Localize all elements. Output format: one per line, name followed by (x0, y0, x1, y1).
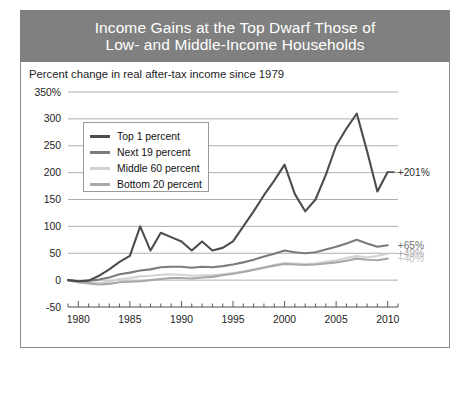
plot-area: -50050100150200250300350%198019851990199… (21, 62, 449, 347)
legend-swatch-middle-60 (90, 167, 110, 170)
figure-title-line-2: Low- and Middle-Income Households (105, 36, 364, 53)
legend-item-bottom-20: Bottom 20 percent (90, 176, 202, 192)
y-tick-label-250: 250 (44, 140, 62, 151)
chart-panel: Percent change in real after-tax income … (20, 62, 450, 348)
end-label-201: +201% (398, 167, 430, 178)
y-tick-label-50: 50 (49, 248, 61, 259)
legend-item-top-1: Top 1 percent (90, 128, 202, 144)
x-tick-label-1995: 1995 (221, 314, 244, 325)
legend-item-next-19: Next 19 percent (90, 144, 202, 160)
legend-label-middle-60: Middle 60 percent (117, 163, 200, 174)
chart-legend: Top 1 percent Next 19 percent Middle 60 … (83, 122, 209, 192)
y-tick-label-300: 300 (44, 113, 62, 124)
chart-figure: Income Gains at the Top Dwarf Those of L… (0, 0, 473, 407)
y-tick-label-350: 350% (34, 87, 61, 98)
y-tick-label-200: 200 (44, 167, 62, 178)
x-tick-label-2005: 2005 (325, 314, 348, 325)
legend-label-next-19: Next 19 percent (117, 147, 190, 158)
x-tick-label-1980: 1980 (67, 314, 90, 325)
y-tick-label-100: 100 (44, 221, 62, 232)
x-tick-label-1985: 1985 (118, 314, 141, 325)
x-tick-label-2010: 2010 (376, 314, 399, 325)
legend-label-top-1: Top 1 percent (117, 131, 180, 142)
figure-title-band: Income Gains at the Top Dwarf Those of L… (20, 10, 450, 62)
y-tick-label--50: -50 (46, 302, 61, 313)
legend-label-bottom-20: Bottom 20 percent (117, 179, 202, 190)
x-tick-label-2000: 2000 (273, 314, 296, 325)
legend-swatch-top-1 (90, 135, 110, 138)
x-tick-label-1990: 1990 (170, 314, 193, 325)
end-label-40: +40% (398, 253, 424, 264)
line-chart-svg: -50050100150200250300350%198019851990199… (21, 62, 449, 347)
legend-swatch-bottom-20 (90, 183, 110, 186)
series-line-middle-60-percent (68, 254, 388, 283)
y-tick-label-150: 150 (44, 194, 62, 205)
y-tick-label-0: 0 (55, 275, 61, 286)
legend-swatch-next-19 (90, 151, 110, 154)
legend-item-middle-60: Middle 60 percent (90, 160, 202, 176)
figure-title-line-1: Income Gains at the Top Dwarf Those of (95, 19, 376, 36)
